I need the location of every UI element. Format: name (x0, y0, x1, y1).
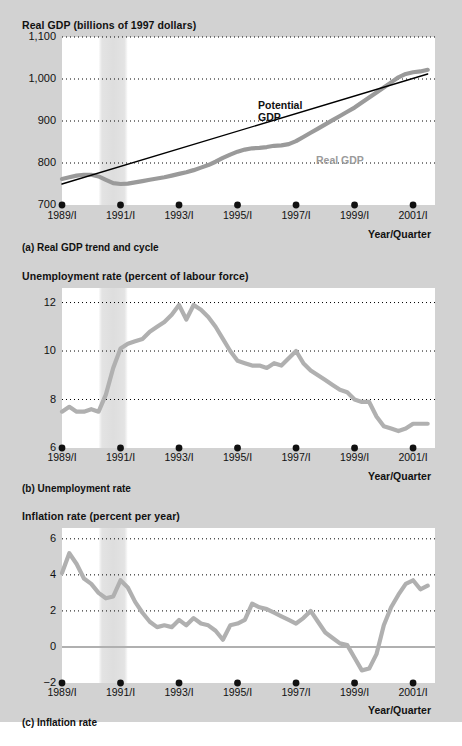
y-tick-label: 900 (8, 114, 56, 126)
y-tick-label: 800 (8, 156, 56, 168)
y-tick-label: 8 (8, 393, 56, 405)
potential-gdp-label: Potential GDP (258, 99, 302, 123)
x-tick-label: 1989/I (32, 451, 92, 463)
y-tick-label: 1,000 (8, 72, 56, 84)
x-tick-label: 2001/I (383, 209, 443, 221)
panel-inflation: Inflation rate (percent per year) −20246… (0, 490, 462, 722)
panel-a-x-axis-name: Year/Quarter (368, 228, 431, 240)
panel-b-x-axis-name: Year/Quarter (368, 470, 431, 482)
figure-container: Real GDP (billions of 1997 dollars) 7008… (0, 0, 462, 722)
x-tick-label: 1993/I (149, 209, 209, 221)
x-tick-label: 1999/I (325, 686, 385, 698)
x-tick-label: 1995/I (208, 209, 268, 221)
x-tick-label: 1993/I (149, 451, 209, 463)
x-tick-label: 1991/I (91, 451, 151, 463)
y-tick-label: 4 (8, 568, 56, 580)
x-tick-label: 2001/I (383, 686, 443, 698)
y-tick-label: 10 (8, 344, 56, 356)
y-tick-label: 2 (8, 604, 56, 616)
x-tick-label: 1989/I (32, 686, 92, 698)
y-tick-label: 0 (8, 640, 56, 652)
panel-c-caption: (c) Inflation rate (22, 717, 97, 728)
x-tick-label: 1997/I (266, 686, 326, 698)
x-tick-label: 1995/I (208, 451, 268, 463)
x-tick-label: 2001/I (383, 451, 443, 463)
panel-unemployment: Unemployment rate (percent of labour for… (0, 250, 462, 490)
y-tick-label: 1,100 (8, 30, 56, 42)
x-tick-label: 1991/I (91, 686, 151, 698)
y-tick-label: 12 (8, 296, 56, 308)
real-gdp-label: Real GDP (316, 154, 364, 166)
x-tick-label: 1999/I (325, 209, 385, 221)
x-tick-label: 1997/I (266, 209, 326, 221)
x-tick-label: 1997/I (266, 451, 326, 463)
panel-c-x-axis-name: Year/Quarter (368, 704, 431, 716)
x-tick-label: 1995/I (208, 686, 268, 698)
x-tick-label: 1993/I (149, 686, 209, 698)
x-tick-label: 1989/I (32, 209, 92, 221)
panel-real-gdp: Real GDP (billions of 1997 dollars) 7008… (0, 0, 462, 250)
x-tick-label: 1999/I (325, 451, 385, 463)
x-tick-label: 1991/I (91, 209, 151, 221)
y-tick-label: 6 (8, 532, 56, 544)
